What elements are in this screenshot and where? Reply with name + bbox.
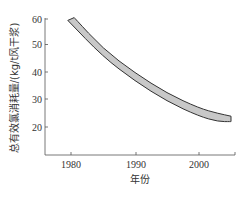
y-tick-label: 40 <box>32 67 42 78</box>
y-tick-label: 60 <box>32 14 42 25</box>
y-tick-label: 50 <box>32 39 42 50</box>
x-axis-title: 年份 <box>130 173 150 185</box>
y-axis-title: 总有效氯消耗量/(kg/t风干浆) <box>8 23 20 154</box>
chlorine-consumption-band <box>68 18 231 122</box>
y-ticks: 60 50 40 30 20 <box>32 14 48 133</box>
y-tick-label: 30 <box>32 94 42 105</box>
x-tick-label: 1980 <box>61 159 81 170</box>
x-tick-label: 2000 <box>189 159 209 170</box>
chart-canvas: 60 50 40 30 20 1980 1990 2000 年份 总有效氯消耗量… <box>0 0 252 198</box>
x-tick-label: 1990 <box>126 159 146 170</box>
y-tick-label: 20 <box>32 122 42 133</box>
